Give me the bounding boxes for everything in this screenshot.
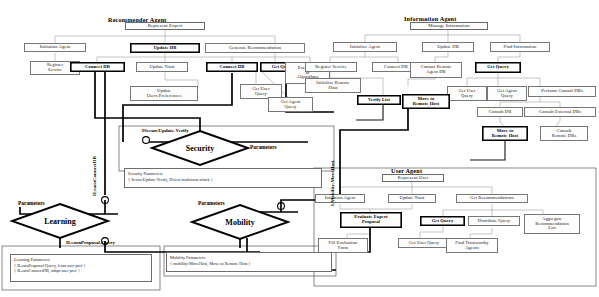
node-move-to-remote-host-1[interactable]: Move to Remote Host xyxy=(402,94,450,109)
node-register-service-inf[interactable]: Register Service xyxy=(305,62,357,72)
note-learning-parameters: Learning Parameters { ILearnProposal-Que… xyxy=(10,254,152,282)
agent-title-user: User Agent xyxy=(391,167,422,174)
node-consult-remote-dbs[interactable]: Consult Remote DBs xyxy=(540,126,588,141)
note-line-learning-1: { ILearnConnectDB, adapt user pref } xyxy=(14,268,148,274)
vertical-label-learn-connect-db: ILearnConnectDB xyxy=(92,156,97,196)
node-verify-list[interactable]: Verify List xyxy=(357,95,401,105)
node-get-recommendations[interactable]: Get Recommendations xyxy=(456,194,528,203)
node-evaluate-expert-proposal[interactable]: Evaluate Expert Proposal xyxy=(340,212,402,228)
node-perform-consult-dbs[interactable]: Perform Consult DBs xyxy=(528,86,596,97)
agent-title-information: Information Agent xyxy=(404,15,457,22)
node-move-to-remote-host-2[interactable]: Move to Remote Host xyxy=(482,126,528,141)
node-initiation-agent-rec[interactable]: Initiation Agent xyxy=(24,43,86,52)
node-find-information[interactable]: Find Information xyxy=(490,42,550,52)
agent-root-information[interactable]: Manage Information xyxy=(410,22,488,30)
node-distribute-query[interactable]: Distribute Query xyxy=(468,216,520,226)
node-get-query-inf[interactable]: Get Query xyxy=(475,62,521,73)
node-find-trustworthy-agents[interactable]: Find Trustworthy Agents xyxy=(446,238,498,253)
node-get-agent-query-rec[interactable]: Get Agent Query xyxy=(268,97,313,112)
node-contact-remote-agent-db[interactable]: Contact Remote Agent DB xyxy=(410,62,462,78)
node-generate-recommendation[interactable]: Generate Recommendation xyxy=(205,43,305,53)
node-consult-db[interactable]: Consult DB xyxy=(477,107,523,117)
node-update-db-inf[interactable]: Update DB xyxy=(422,42,474,52)
node-update-db-rec[interactable]: Update DB xyxy=(130,43,200,53)
node-initialize-remote-host[interactable]: Initialize Remote Host xyxy=(305,78,361,93)
aspect-diamond-security[interactable]: Security xyxy=(152,131,248,165)
note-mobility-parameters: Mobility Parameters { mobility:MoveHost,… xyxy=(166,252,332,272)
node-update-trust-rec[interactable]: Update Trust xyxy=(136,62,188,72)
node-get-user-query-inf[interactable]: Get User Query xyxy=(447,86,487,101)
node-update-trust-usr[interactable]: Update Trust xyxy=(388,194,436,203)
node-get-agent-query-inf[interactable]: Get Agent Query xyxy=(487,86,527,101)
aspect-label-learning: Learning xyxy=(12,204,108,238)
node-initialize-agent-inf[interactable]: Initialize Agent xyxy=(333,42,397,52)
aspect-diamond-learning[interactable]: Learning xyxy=(12,204,108,238)
parameters-label-security: Parameters xyxy=(250,144,277,150)
pointcut-label-learn-proposal-query: ILearnProposal-Query xyxy=(66,240,115,245)
agent-root-recommender[interactable]: Represent Expert xyxy=(125,22,205,30)
note-line-mobility-0: { mobility:MoveHost, Move to Remote Host… xyxy=(170,261,328,267)
node-initiation-agent-usr[interactable]: Initiation Agent xyxy=(315,194,365,203)
node-consult-external-dbs[interactable]: Consult External DBs xyxy=(524,107,596,117)
diagram-canvas: Recommender Agent Represent Expert Initi… xyxy=(0,0,599,297)
node-aggregate-recommendation-list[interactable]: Aggregate Recommendation List xyxy=(524,214,580,234)
node-update-users-preferences-rec[interactable]: Update Users Preferences xyxy=(130,86,198,101)
vertical-label-mobility-movehost: I:Mobility:MoveHost xyxy=(330,160,335,206)
aspect-label-mobility: Mobility xyxy=(192,205,288,239)
aspect-diamond-mobility[interactable]: Mobility xyxy=(192,205,288,239)
note-security-parameters: Security Parameters { SecureUpdate-Verif… xyxy=(124,168,322,188)
node-get-query-usr[interactable]: Get Query xyxy=(420,216,465,226)
node-get-user-query-usr[interactable]: Get User Query xyxy=(398,238,450,248)
node-fill-evaluation-form[interactable]: Fill Evaluation Form xyxy=(318,238,368,253)
node-connect-db-rec[interactable]: Connect DB xyxy=(70,62,125,72)
note-line-security-0: { SecureUpdate-Verify, Detect malicious … xyxy=(128,177,318,183)
agent-root-user[interactable]: Represent User xyxy=(382,174,444,182)
aspect-label-security: Security xyxy=(152,131,248,165)
node-connect-db-rec2[interactable]: Connect DB xyxy=(206,62,258,72)
